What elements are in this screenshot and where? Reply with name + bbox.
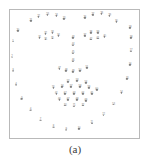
scatter-plot-frame: 2122232425262728293031323334353637383940… bbox=[9, 9, 140, 139]
landmark-label: 50 bbox=[79, 70, 82, 73]
landmark-point: 67 bbox=[67, 98, 70, 101]
landmark-point: 19 bbox=[129, 26, 132, 29]
landmark-label: 38 bbox=[89, 31, 92, 34]
landmark-label: 28 bbox=[100, 13, 103, 16]
landmark-point: 58 bbox=[79, 85, 82, 88]
landmark-point: 11 bbox=[91, 122, 93, 125]
landmark-point: 60 bbox=[95, 88, 98, 91]
landmark-point: 6 bbox=[30, 109, 31, 112]
landmark-label: 14 bbox=[120, 91, 123, 94]
landmark-label: 51 bbox=[86, 67, 89, 70]
landmark-label: 26 bbox=[84, 17, 87, 20]
landmark-label: 20 bbox=[17, 29, 20, 32]
landmark-label: 19 bbox=[129, 26, 132, 29]
landmark-point: 70 bbox=[64, 104, 67, 107]
landmark-point: 25 bbox=[63, 18, 66, 21]
landmark-label: 36 bbox=[44, 38, 47, 41]
landmark-point: 64 bbox=[82, 92, 85, 95]
landmark-point: 30 bbox=[115, 20, 118, 23]
landmark-label: 60 bbox=[95, 88, 98, 91]
landmark-label: 7 bbox=[40, 119, 41, 122]
landmark-label: 12 bbox=[102, 114, 105, 117]
landmark-point: 21 bbox=[29, 19, 32, 22]
landmark-label: 43 bbox=[72, 36, 75, 39]
landmark-point: 53 bbox=[76, 80, 79, 83]
landmark-label: 55 bbox=[52, 86, 55, 89]
landmark-point: 61 bbox=[55, 92, 58, 95]
landmark-label: 64 bbox=[82, 92, 85, 95]
landmark-point: 68 bbox=[76, 98, 79, 101]
landmark-label: 16 bbox=[129, 64, 132, 67]
landmark-point: 15 bbox=[126, 78, 129, 81]
landmark-label: 44 bbox=[72, 44, 75, 47]
landmark-label: 35 bbox=[51, 37, 54, 40]
figure-panel: 2122232425262728293031323334353637383940… bbox=[0, 0, 150, 166]
landmark-label: 3 bbox=[12, 70, 13, 73]
landmark-point: 49 bbox=[72, 71, 75, 74]
landmark-label: 63 bbox=[73, 92, 76, 95]
landmark-point: 56 bbox=[61, 85, 64, 88]
landmark-point: 23 bbox=[46, 14, 49, 17]
landmark-label: 40 bbox=[103, 35, 106, 38]
landmark-label: 67 bbox=[67, 98, 70, 101]
figure-caption: (a) bbox=[0, 143, 150, 155]
landmark-label: 72 bbox=[82, 104, 85, 107]
landmark-point: 62 bbox=[64, 92, 67, 95]
landmark-point: 26 bbox=[84, 17, 87, 20]
landmark-point: 4 bbox=[15, 83, 16, 86]
landmark-point: 10 bbox=[78, 128, 81, 131]
landmark-point: 59 bbox=[87, 86, 90, 89]
landmark-label: 69 bbox=[85, 99, 88, 102]
landmark-point: 44 bbox=[72, 44, 75, 47]
landmark-point: 7 bbox=[40, 119, 41, 122]
landmark-label: 1 bbox=[12, 40, 13, 43]
landmark-label: 52 bbox=[67, 81, 70, 84]
landmark-point: 29 bbox=[108, 15, 111, 18]
landmark-point: 45 bbox=[72, 52, 75, 55]
landmark-label: 46 bbox=[72, 60, 75, 63]
landmark-label: 39 bbox=[96, 31, 99, 34]
landmark-label: 58 bbox=[79, 85, 82, 88]
landmark-point: 34 bbox=[57, 34, 60, 37]
landmark-point: 43 bbox=[72, 36, 75, 39]
landmark-label: 45 bbox=[72, 52, 75, 55]
landmark-point: 38 bbox=[89, 31, 92, 34]
landmark-point: 2 bbox=[11, 56, 12, 59]
landmark-label: 62 bbox=[64, 92, 67, 95]
landmark-point: 22 bbox=[37, 16, 40, 19]
landmark-label: 65 bbox=[90, 92, 93, 95]
landmark-label: 9 bbox=[65, 129, 66, 132]
landmark-label: 59 bbox=[87, 86, 90, 89]
landmark-label: 37 bbox=[84, 34, 87, 37]
landmark-label: 4 bbox=[15, 83, 16, 86]
landmark-label: 21 bbox=[29, 19, 32, 22]
landmark-point: 8 bbox=[53, 126, 54, 129]
landmark-point: 39 bbox=[96, 31, 99, 34]
landmark-point: 18 bbox=[130, 36, 133, 39]
landmark-label: 61 bbox=[55, 92, 58, 95]
landmark-label: 33 bbox=[51, 31, 54, 34]
landmark-label: 42 bbox=[89, 38, 92, 41]
landmark-point: 16 bbox=[129, 64, 132, 67]
landmark-label: 70 bbox=[64, 104, 67, 107]
landmark-label: 71 bbox=[73, 105, 76, 108]
landmark-label: 34 bbox=[57, 34, 60, 37]
landmark-label: 2 bbox=[11, 56, 12, 59]
landmark-label: 68 bbox=[76, 98, 79, 101]
landmark-point: 36 bbox=[44, 38, 47, 41]
landmark-label: 13 bbox=[112, 103, 115, 106]
landmark-label: 24 bbox=[55, 15, 58, 18]
landmark-point: 5 bbox=[21, 97, 22, 100]
landmark-label: 31 bbox=[38, 36, 41, 39]
landmark-label: 49 bbox=[72, 71, 75, 74]
landmark-label: 47 bbox=[58, 68, 61, 71]
landmark-point: 51 bbox=[86, 67, 89, 70]
landmark-point: 17 bbox=[130, 50, 133, 53]
landmark-label: 15 bbox=[126, 78, 129, 81]
landmark-point: 69 bbox=[85, 99, 88, 102]
landmark-point: 20 bbox=[17, 29, 20, 32]
landmark-point: 35 bbox=[51, 37, 54, 40]
landmark-point: 42 bbox=[89, 38, 92, 41]
landmark-point: 48 bbox=[65, 70, 68, 73]
landmark-point: 52 bbox=[67, 81, 70, 84]
